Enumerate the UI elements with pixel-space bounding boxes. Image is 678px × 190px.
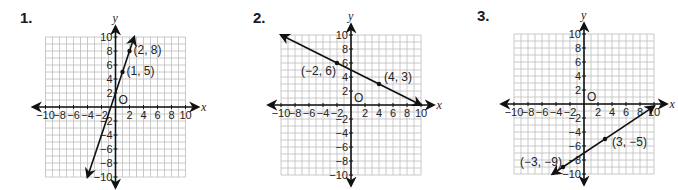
y-tick-label: 2 bbox=[342, 85, 348, 97]
point-label: (−2, 6) bbox=[301, 64, 336, 78]
x-tick-label: 2 bbox=[595, 106, 601, 118]
y-axis-label: y bbox=[580, 8, 587, 22]
origin-label: O bbox=[119, 93, 128, 107]
y-tick-label: 4 bbox=[342, 71, 348, 83]
y-tick-label: 10 bbox=[100, 31, 112, 43]
x-tick-label: 6 bbox=[154, 109, 160, 121]
y-axis-label: y bbox=[112, 11, 119, 25]
y-tick-label: −10 bbox=[94, 171, 113, 183]
coordinate-graph-1: xy−10−8−6−4−2246810108642−2−4−6−8−10O(2,… bbox=[33, 11, 207, 188]
data-point bbox=[603, 137, 607, 141]
data-point bbox=[377, 82, 381, 86]
x-tick-label: 8 bbox=[404, 107, 410, 119]
origin-label: O bbox=[354, 91, 363, 105]
point-label: (3, −5) bbox=[612, 135, 647, 149]
x-tick-label: 2 bbox=[362, 107, 368, 119]
x-tick-label: −10 bbox=[272, 107, 291, 119]
x-tick-label: 2 bbox=[126, 109, 132, 121]
x-tick-label: −4 bbox=[317, 107, 330, 119]
x-tick-label: −10 bbox=[36, 109, 55, 121]
y-tick-label: −4 bbox=[335, 127, 348, 139]
x-tick-label: −8 bbox=[53, 109, 66, 121]
point-label: (1, 5) bbox=[127, 64, 155, 78]
x-tick-label: −8 bbox=[522, 106, 535, 118]
y-tick-label: 4 bbox=[106, 73, 112, 85]
graphs-canvas: xy−10−8−6−4−2246810108642−2−4−6−8−10O(2,… bbox=[0, 0, 678, 190]
y-axis-label: y bbox=[347, 9, 354, 23]
y-tick-label: 8 bbox=[106, 45, 112, 57]
y-tick-label: 10 bbox=[336, 29, 348, 41]
x-tick-label: 10 bbox=[179, 109, 191, 121]
x-tick-label: 8 bbox=[168, 109, 174, 121]
point-label: (4, 3) bbox=[384, 70, 412, 84]
y-tick-label: −6 bbox=[100, 143, 113, 155]
y-tick-label: −2 bbox=[335, 113, 348, 125]
x-tick-label: 6 bbox=[390, 107, 396, 119]
y-tick-label: 10 bbox=[569, 28, 581, 40]
x-tick-label: 4 bbox=[609, 106, 615, 118]
x-tick-label: −4 bbox=[81, 109, 94, 121]
data-point bbox=[127, 49, 131, 53]
y-tick-label: 4 bbox=[575, 70, 581, 82]
x-tick-label: 4 bbox=[140, 109, 146, 121]
data-point bbox=[120, 70, 124, 74]
y-tick-label: −6 bbox=[568, 140, 581, 152]
x-tick-label: −4 bbox=[550, 106, 563, 118]
y-tick-label: −2 bbox=[568, 112, 581, 124]
coordinate-graph-3: xy−10−8−6−4−2246810108642−2−4−6−8−10O(3,… bbox=[501, 8, 675, 185]
y-tick-label: −8 bbox=[100, 157, 113, 169]
y-tick-label: −8 bbox=[335, 155, 348, 167]
x-axis-label: x bbox=[435, 98, 442, 112]
y-tick-label: 2 bbox=[575, 84, 581, 96]
point-label: (−3, −9) bbox=[520, 155, 562, 169]
y-tick-label: 2 bbox=[106, 87, 112, 99]
x-tick-label: −6 bbox=[536, 106, 549, 118]
coordinate-graph-2: xy−10−8−6−4−2246810108642−2−4−6−8−10O(−2… bbox=[268, 9, 442, 186]
x-tick-label: 4 bbox=[376, 107, 382, 119]
y-tick-label: 8 bbox=[342, 43, 348, 55]
point-label: (2, 8) bbox=[134, 43, 162, 57]
y-tick-label: −10 bbox=[329, 169, 348, 181]
y-tick-label: 8 bbox=[575, 42, 581, 54]
x-axis-label: x bbox=[200, 100, 207, 114]
y-tick-label: −6 bbox=[335, 141, 348, 153]
x-tick-label: −6 bbox=[67, 109, 80, 121]
x-tick-label: 6 bbox=[623, 106, 629, 118]
x-tick-label: −10 bbox=[505, 106, 524, 118]
origin-label: O bbox=[587, 90, 596, 104]
y-tick-label: 6 bbox=[106, 59, 112, 71]
x-tick-label: −6 bbox=[303, 107, 316, 119]
y-tick-label: −4 bbox=[568, 126, 581, 138]
x-axis-label: x bbox=[668, 97, 675, 111]
y-tick-label: 6 bbox=[575, 56, 581, 68]
x-tick-label: −8 bbox=[289, 107, 302, 119]
x-tick-label: 10 bbox=[648, 106, 660, 118]
x-tick-label: 10 bbox=[415, 107, 427, 119]
y-tick-label: −10 bbox=[562, 168, 581, 180]
